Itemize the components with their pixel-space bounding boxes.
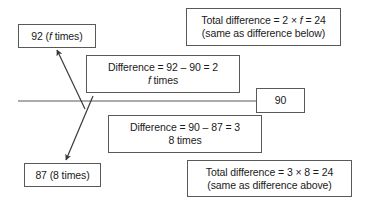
difference-lower-line1: Difference = 90 – 87 = 3: [130, 121, 240, 134]
total-difference-below-line2: (same as difference above): [207, 179, 331, 192]
value-box-87-line1: 87 (8 times): [35, 169, 89, 182]
value-box-92: 92 (f times): [18, 24, 96, 48]
value-box-90-line1: 90: [275, 94, 286, 107]
value-box-87: 87 (8 times): [24, 163, 101, 187]
difference-lower-line2: 8 times: [168, 134, 201, 147]
diagram-canvas: 92 (f times) Total difference = 2 × f = …: [0, 0, 372, 210]
arrow-down-to-87: [66, 96, 93, 160]
difference-upper-box: Difference = 92 – 90 = 2 f times: [86, 55, 240, 93]
difference-upper-line2: f times: [148, 74, 178, 87]
arrow-up-to-92: [57, 50, 85, 109]
value-box-90: 90: [256, 88, 305, 113]
total-difference-below-line1: Total difference = 3 × 8 = 24: [206, 166, 333, 179]
difference-lower-box: Difference = 90 – 87 = 3 8 times: [108, 115, 262, 153]
total-difference-above-box: Total difference = 2 × f = 24 (same as d…: [186, 8, 341, 46]
value-box-92-line1: 92 (f times): [31, 30, 82, 43]
total-difference-above-line1: Total difference = 2 × f = 24: [201, 14, 325, 27]
total-difference-above-line2: (same as difference below): [202, 27, 325, 40]
difference-upper-line1: Difference = 92 – 90 = 2: [108, 61, 218, 74]
total-difference-below-box: Total difference = 3 × 8 = 24 (same as d…: [187, 160, 352, 197]
